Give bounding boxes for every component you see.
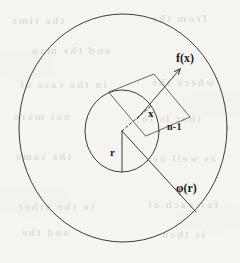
dashed-radius-to-x [122,106,151,131]
label-point-x: x [148,108,154,119]
outer-circle [19,14,227,242]
label-inner-radius: r [110,147,115,158]
diagram-canvas [0,0,240,263]
label-outer-radius: φ(r) [176,182,197,194]
label-hyperplane-dimension: n-1 [167,122,182,132]
outer-radius-segment [122,131,196,212]
function-arrow-icon [137,69,180,119]
figure-container: the time from the and the man in the cas… [0,0,240,263]
label-function-vector: f(x) [176,52,194,64]
